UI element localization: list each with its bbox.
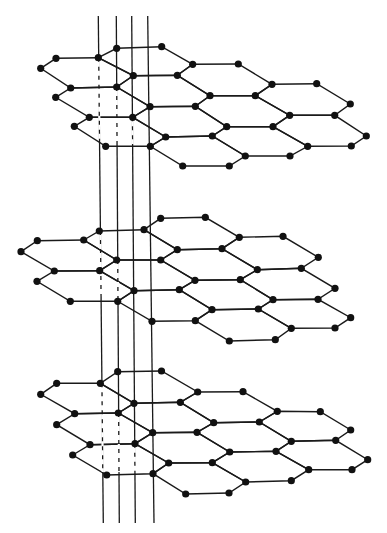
atom-node	[113, 45, 120, 52]
hexagon-ring	[84, 230, 178, 260]
atom-node	[86, 441, 93, 448]
atom-node	[304, 143, 311, 150]
hexagon-ring	[144, 217, 239, 249]
hexagon-ring	[258, 299, 350, 328]
atom-node	[242, 478, 249, 485]
hexagon-ring	[37, 271, 134, 302]
hexagon-ring	[276, 440, 368, 469]
hexagon-ring	[197, 422, 291, 452]
atom-node	[174, 246, 181, 253]
atom-node	[209, 459, 216, 466]
hidden-line-segment	[99, 62, 100, 141]
hexagon-ring	[118, 402, 213, 432]
atom-node	[71, 410, 78, 417]
atom-node	[348, 466, 355, 473]
atom-node	[115, 409, 122, 416]
atom-node	[242, 152, 249, 159]
hexagon-ring	[161, 249, 258, 281]
atom-node	[252, 92, 259, 99]
atom-node	[192, 317, 199, 324]
atom-node	[363, 132, 370, 139]
atom-node	[96, 267, 103, 274]
atom-node	[193, 429, 200, 436]
atom-node	[237, 276, 244, 283]
hexagon-ring	[195, 309, 291, 341]
hexagon-ring	[240, 268, 335, 299]
atom-node	[176, 286, 183, 293]
atom-node	[114, 368, 121, 375]
atom-node	[288, 477, 295, 484]
hexagon-ring	[179, 280, 273, 310]
atom-node	[268, 81, 275, 88]
atom-node	[313, 80, 320, 87]
hexagon-ring	[212, 451, 308, 482]
hexagon-ring	[259, 411, 350, 441]
atom-node	[17, 248, 24, 255]
atom-node	[129, 114, 136, 121]
hexagon-ring	[180, 392, 277, 423]
atom-node	[114, 298, 121, 305]
atom-node	[53, 421, 60, 428]
atom-node	[179, 162, 186, 169]
atom-node	[140, 226, 147, 233]
atom-node	[69, 451, 76, 458]
atom-node	[256, 418, 263, 425]
atom-node	[147, 143, 154, 150]
atom-node	[96, 227, 103, 234]
atom-node	[210, 419, 217, 426]
atom-node	[206, 92, 213, 99]
atom-node	[315, 254, 322, 261]
atom-node	[177, 399, 184, 406]
hexagon-ring	[133, 106, 227, 137]
lattice-layers	[21, 47, 368, 494]
atom-node	[95, 54, 102, 61]
atom-node	[226, 448, 233, 455]
atom-node	[286, 112, 293, 119]
atom-node	[209, 132, 216, 139]
hexagon-ring	[56, 87, 150, 117]
atom-node	[148, 318, 155, 325]
hexagon-ring	[41, 383, 134, 413]
hexagon-ring	[100, 371, 197, 403]
hexagon-ring	[195, 96, 289, 127]
atom-node	[255, 305, 262, 312]
atom-node	[208, 306, 215, 313]
lattice-svg	[0, 0, 387, 533]
atom-node	[103, 471, 110, 478]
atom-node	[218, 245, 225, 252]
hexagon-ring	[153, 463, 246, 494]
hexagon-ring	[177, 64, 272, 96]
atom-node	[235, 60, 242, 67]
hexagon-ring	[21, 240, 117, 271]
atom-node	[269, 296, 276, 303]
hexagon-ring	[255, 84, 350, 116]
atom-node	[225, 489, 232, 496]
hexagon-ring	[118, 290, 212, 322]
hexagon-ring	[150, 136, 245, 166]
atom-node	[97, 380, 104, 387]
hexagon-ring	[73, 444, 169, 475]
middle-layer	[21, 217, 351, 341]
atom-node	[37, 391, 44, 398]
vertical-line-2	[116, 16, 119, 523]
atom-node	[254, 266, 261, 273]
atom-node	[191, 277, 198, 284]
atom-node	[165, 459, 172, 466]
atom-node	[226, 337, 233, 344]
atom-node	[274, 408, 281, 415]
bottom-layer	[41, 371, 368, 494]
atom-node	[348, 142, 355, 149]
atom-node	[269, 123, 276, 130]
atom-node	[130, 287, 137, 294]
atom-node	[347, 100, 354, 107]
atom-node	[52, 55, 59, 62]
atom-node	[332, 437, 339, 444]
atom-node	[37, 65, 44, 72]
atom-node	[146, 103, 153, 110]
atom-node	[317, 408, 324, 415]
atom-node	[130, 400, 137, 407]
atom-node	[202, 214, 209, 221]
atom-node	[102, 143, 109, 150]
atom-node	[113, 83, 120, 90]
atom-node	[288, 438, 295, 445]
